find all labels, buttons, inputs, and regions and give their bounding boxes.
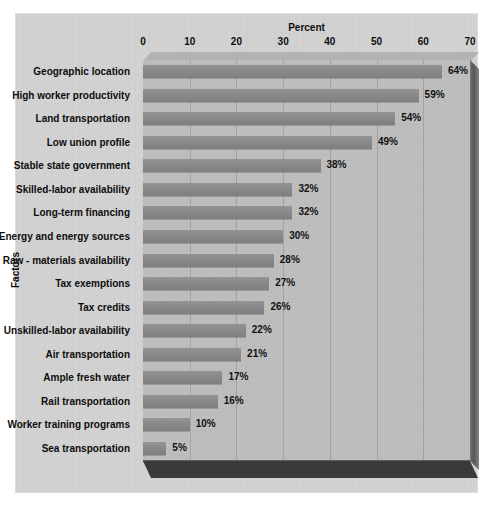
bar[interactable]	[143, 183, 292, 196]
x-axis-tick-label: 50	[371, 36, 382, 48]
category-label: Ample fresh water	[0, 371, 130, 384]
bar[interactable]	[143, 89, 419, 102]
bar-row[interactable]: 21%	[143, 348, 470, 361]
bar[interactable]	[143, 254, 274, 267]
bar[interactable]	[143, 301, 264, 314]
category-label: High worker productivity	[0, 89, 130, 102]
x-axis-tick-label: 20	[231, 36, 242, 48]
category-label: Sea transportation	[0, 442, 130, 455]
x-axis-tick-label: 0	[140, 36, 146, 48]
bar-value-label: 49%	[378, 135, 398, 149]
bar-value-label: 26%	[270, 300, 290, 314]
bar-row[interactable]: 26%	[143, 301, 470, 314]
bar[interactable]	[143, 136, 372, 149]
bar[interactable]	[143, 206, 292, 219]
plot-area: 64%59%54%49%38%32%32%30%28%27%26%22%21%1…	[143, 60, 470, 460]
bar-value-label: 10%	[196, 417, 216, 431]
category-label: Long-term financing	[0, 206, 130, 219]
bar-value-label: 21%	[247, 347, 267, 361]
bar-value-label: 27%	[275, 276, 295, 290]
bar-row[interactable]: 54%	[143, 112, 470, 125]
bar-value-label: 32%	[298, 182, 318, 196]
bar-row[interactable]: 30%	[143, 230, 470, 243]
bar-row[interactable]: 22%	[143, 324, 470, 337]
bar[interactable]	[143, 230, 283, 243]
bar-value-label: 28%	[280, 253, 300, 267]
bar[interactable]	[143, 371, 222, 384]
chart-figure: Percent 010203040506070 64%59%54%49%38%3…	[0, 0, 494, 526]
y-axis-label: Factors	[6, 268, 66, 288]
bar-value-label: 22%	[252, 323, 272, 337]
category-label: Rail transportation	[0, 395, 130, 408]
bar-row[interactable]: 5%	[143, 442, 470, 455]
bar-value-label: 17%	[228, 370, 248, 384]
category-label: Tax credits	[0, 301, 130, 314]
bar-row[interactable]: 32%	[143, 183, 470, 196]
category-label: Geographic location	[0, 65, 130, 78]
category-label: Worker training programs	[0, 418, 130, 431]
bar-value-label: 30%	[289, 229, 309, 243]
bar[interactable]	[143, 324, 246, 337]
bar-row[interactable]: 32%	[143, 206, 470, 219]
bar[interactable]	[143, 159, 321, 172]
bar-row[interactable]: 16%	[143, 395, 470, 408]
plot-3d-right-wall	[470, 60, 479, 470]
bar-row[interactable]: 28%	[143, 254, 470, 267]
category-label: Energy and energy sources	[0, 230, 130, 243]
bar-value-label: 64%	[448, 64, 468, 78]
category-label: Land transportation	[0, 112, 130, 125]
bar-row[interactable]: 27%	[143, 277, 470, 290]
bar[interactable]	[143, 348, 241, 361]
bar-row[interactable]: 59%	[143, 89, 470, 102]
gridline	[470, 60, 471, 460]
bar-value-label: 38%	[327, 158, 347, 172]
x-axis-tick-label: 60	[418, 36, 429, 48]
bar-row[interactable]: 10%	[143, 418, 470, 431]
category-label: Unskilled-labor availability	[0, 324, 130, 337]
x-axis: 010203040506070	[143, 0, 470, 60]
bar[interactable]	[143, 112, 395, 125]
bar[interactable]	[143, 442, 166, 455]
x-axis-tick-label: 40	[324, 36, 335, 48]
bar[interactable]	[143, 418, 190, 431]
x-axis-tick-label: 30	[278, 36, 289, 48]
plot-3d-base-shadow	[143, 461, 478, 478]
category-label: Air transportation	[0, 348, 130, 361]
bar-value-label: 16%	[224, 394, 244, 408]
bar-value-label: 32%	[298, 205, 318, 219]
bar-row[interactable]: 17%	[143, 371, 470, 384]
x-axis-tick-label: 70	[464, 36, 475, 48]
category-label: Low union profile	[0, 136, 130, 149]
x-axis-tick-label: 10	[184, 36, 195, 48]
bar-row[interactable]: 49%	[143, 136, 470, 149]
bar-row[interactable]: 64%	[143, 65, 470, 78]
bar[interactable]	[143, 277, 269, 290]
bar[interactable]	[143, 395, 218, 408]
category-label: Skilled-labor availability	[0, 183, 130, 196]
bar-value-label: 59%	[425, 88, 445, 102]
bar-row[interactable]: 38%	[143, 159, 470, 172]
bar-value-label: 5%	[172, 441, 186, 455]
bar[interactable]	[143, 65, 442, 78]
category-label: Stable state government	[0, 159, 130, 172]
bar-value-label: 54%	[401, 111, 421, 125]
